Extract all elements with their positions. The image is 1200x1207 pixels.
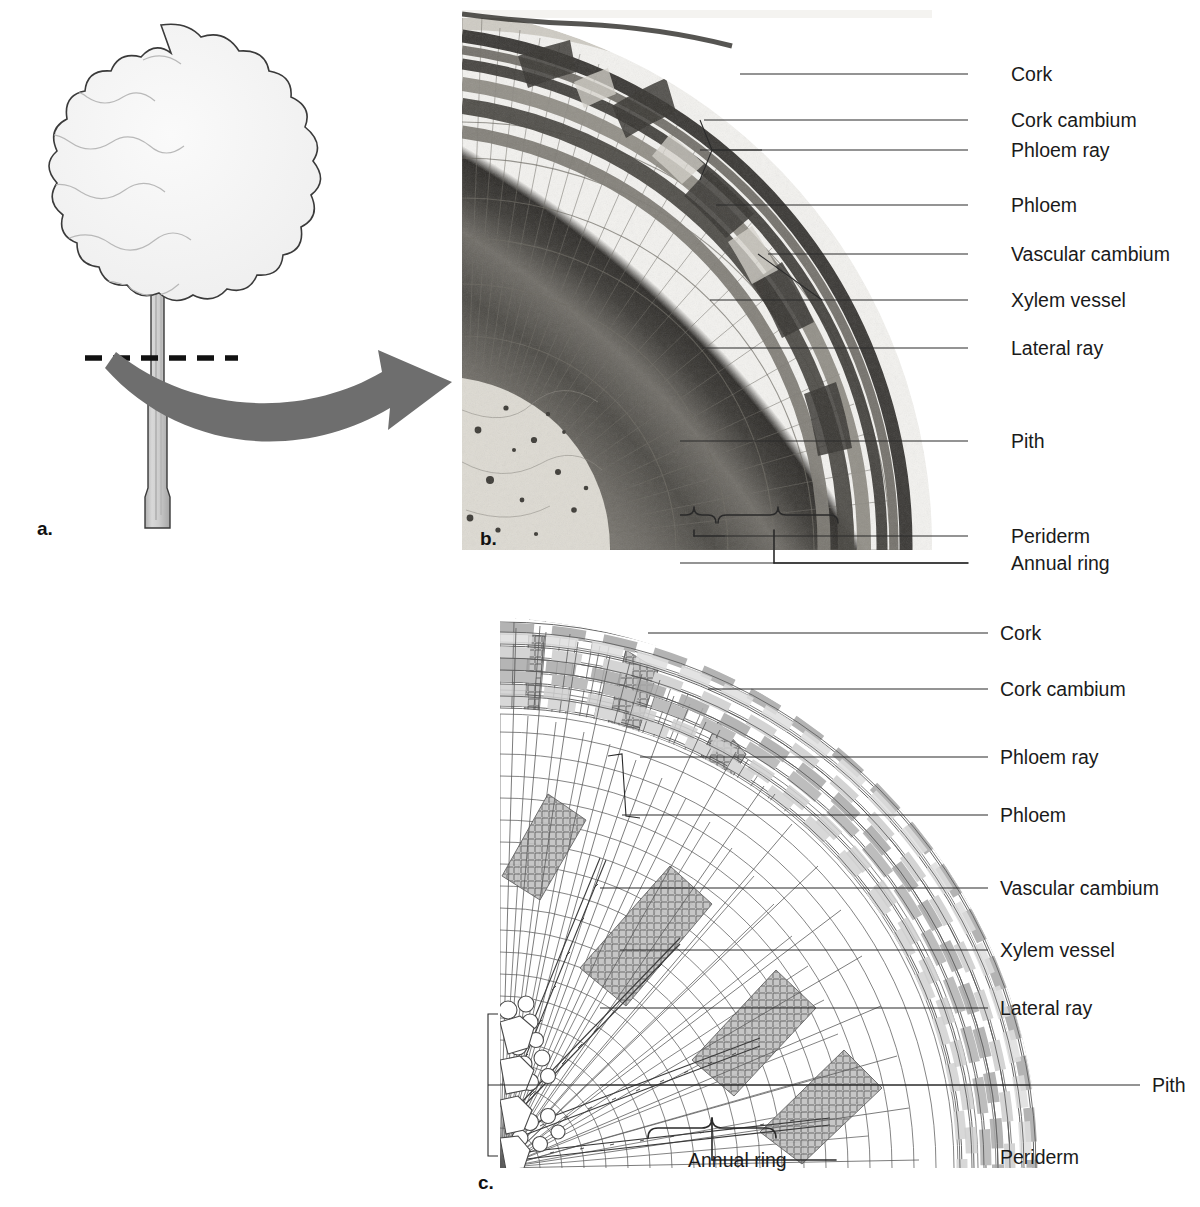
panel-c-label-periderm: Periderm bbox=[1000, 1148, 1079, 1168]
panel-b-label-phloem: Phloem bbox=[1011, 196, 1077, 216]
panel-c-label-lateral-ray: Lateral ray bbox=[1000, 999, 1092, 1019]
panel-c-label-xylem-vessel: Xylem vessel bbox=[1000, 941, 1115, 961]
panel-c-id-label: c. bbox=[478, 1172, 494, 1194]
panel-a-illustration bbox=[0, 0, 470, 580]
panel-c-label-phloem: Phloem bbox=[1000, 806, 1066, 826]
panel-c-label-pith: Pith bbox=[1152, 1076, 1186, 1096]
panel-b-label-periderm: Periderm bbox=[1011, 527, 1090, 547]
panel-b-label-pith: Pith bbox=[1011, 432, 1045, 452]
panel-c-label-vascular-cambium: Vascular cambium bbox=[1000, 879, 1159, 899]
panel-b-label-phloem-ray: Phloem ray bbox=[1011, 141, 1110, 161]
panel-c-label-cork: Cork bbox=[1000, 624, 1041, 644]
figure-root: a. bbox=[0, 0, 1200, 1207]
panel-a-id-label: a. bbox=[37, 518, 53, 540]
panel-b-label-cork: Cork bbox=[1011, 65, 1052, 85]
panel-b-id-label: b. bbox=[480, 528, 497, 550]
panel-b-label-vascular-cambium: Vascular cambium bbox=[1011, 245, 1170, 265]
panel-b-label-xylem-vessel: Xylem vessel bbox=[1011, 291, 1126, 311]
panel-c-label-cork-cambium: Cork cambium bbox=[1000, 680, 1126, 700]
panel-b-annual-ring-brace bbox=[718, 507, 968, 563]
panel-b-label-cork-cambium: Cork cambium bbox=[1011, 111, 1137, 131]
panel-b-label-annual-ring: Annual ring bbox=[1011, 554, 1110, 574]
tree-canopy bbox=[28, 24, 321, 337]
panel-b-label-lateral-ray: Lateral ray bbox=[1011, 339, 1103, 359]
panel-c-label-phloem-ray: Phloem ray bbox=[1000, 748, 1099, 768]
panel-c-label-annual-ring: Annual ring bbox=[688, 1151, 787, 1171]
